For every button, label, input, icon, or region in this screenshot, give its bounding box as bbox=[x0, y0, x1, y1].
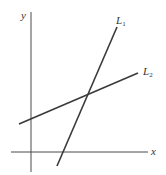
line-l2-label-main: L bbox=[142, 65, 149, 77]
line-l1-label-main: L bbox=[115, 14, 122, 26]
x-axis-label: x bbox=[150, 145, 156, 157]
y-axis-label: y bbox=[20, 9, 26, 21]
line-l1-label-sub: 1 bbox=[122, 20, 126, 28]
line-l1 bbox=[57, 27, 117, 166]
line-l2-label: L2 bbox=[142, 65, 153, 79]
line-l2-label-sub: 2 bbox=[149, 71, 153, 79]
coordinate-diagram: y x L1 L2 bbox=[0, 0, 166, 175]
line-l1-label: L1 bbox=[115, 14, 126, 28]
